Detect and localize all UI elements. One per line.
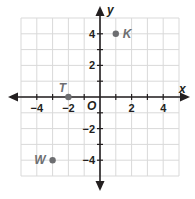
x-tick-label: 2 [129, 102, 135, 114]
x-tick-label: 4 [160, 102, 167, 114]
origin-label: O [87, 99, 97, 113]
y-tick-label: 4 [89, 28, 96, 40]
point-t [65, 94, 71, 100]
x-tick-label: −2 [62, 102, 75, 114]
point-k [113, 31, 119, 37]
x-axis-label: x [178, 82, 187, 96]
y-axis-up-arrow-icon [96, 6, 105, 16]
y-tick-label: −4 [82, 154, 95, 166]
x-tick-label: −4 [31, 102, 44, 114]
point-label-k: K [123, 27, 133, 41]
point-label-t: T [59, 81, 68, 95]
y-tick-label: 2 [89, 59, 95, 71]
y-tick-label: −2 [82, 123, 95, 135]
y-axis-label: y [106, 3, 115, 17]
x-axis-left-arrow-icon [8, 93, 18, 102]
point-w [49, 157, 55, 163]
y-axis-down-arrow-icon [96, 181, 105, 191]
coordinate-plane: −4−22442−2−4 x y O KTW [0, 0, 195, 199]
point-label-w: W [34, 153, 47, 167]
